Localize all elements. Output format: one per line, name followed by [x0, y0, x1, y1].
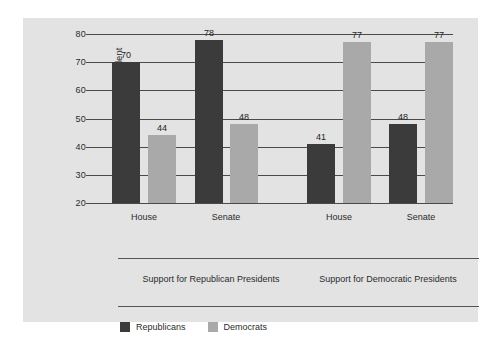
- group-separator-bottom: [118, 306, 479, 307]
- chart-legend: Republicans Democrats: [120, 322, 267, 332]
- legend-item-democrats: Democrats: [208, 322, 268, 332]
- bar-dem-senate-republican-presidents: 48: [230, 124, 258, 203]
- y-tick-label-70: 70: [76, 57, 86, 67]
- y-tick-label-20: 20: [76, 198, 86, 208]
- group-label-republican-presidents: Support for Republican Presidents: [142, 274, 279, 284]
- gridline-60: [95, 90, 453, 91]
- bar-value: 77: [434, 30, 444, 40]
- bar-value: 77: [352, 30, 362, 40]
- y-tick-mark-50: [86, 119, 95, 120]
- category-label-house-1: House: [131, 212, 157, 222]
- bar-dem-house-democratic-presidents: 77: [343, 42, 371, 203]
- bar-value: 70: [121, 50, 131, 60]
- group-label-democratic-presidents: Support for Democratic Presidents: [319, 274, 457, 284]
- axis-baseline: [95, 203, 453, 204]
- legend-item-republicans: Republicans: [120, 322, 186, 332]
- legend-label-democrats: Democrats: [224, 322, 268, 332]
- bar-rep-house-democratic-presidents: 41: [307, 144, 335, 203]
- gridline-70: [95, 62, 453, 63]
- bar-dem-house-republican-presidents: 44: [148, 135, 176, 203]
- y-tick-mark-20: [86, 203, 95, 204]
- category-label-senate-1: Senate: [212, 212, 241, 222]
- group-separator-top: [118, 258, 479, 259]
- y-tick-label-50: 50: [76, 114, 86, 124]
- bar-rep-house-republican-presidents: 70: [112, 62, 140, 203]
- plot-area: Percentage Supporting President 80 70 60…: [95, 34, 453, 203]
- legend-swatch-icon-republicans: [120, 322, 130, 332]
- y-tick-mark-30: [86, 175, 95, 176]
- y-tick-label-80: 80: [76, 29, 86, 39]
- bar-value: 78: [204, 28, 214, 38]
- y-tick-label-60: 60: [76, 85, 86, 95]
- category-label-house-2: House: [326, 212, 352, 222]
- bar-value: 44: [157, 123, 167, 133]
- bar-rep-senate-democratic-presidents: 48: [389, 124, 417, 203]
- y-tick-label-30: 30: [76, 170, 86, 180]
- bar-value: 48: [398, 112, 408, 122]
- y-tick-mark-80: [86, 34, 95, 35]
- y-tick-mark-60: [86, 90, 95, 91]
- y-tick-mark-40: [86, 147, 95, 148]
- bar-dem-senate-democratic-presidents: 77: [425, 42, 453, 203]
- legend-swatch-icon-democrats: [208, 322, 218, 332]
- bar-value: 48: [239, 112, 249, 122]
- legend-label-republicans: Republicans: [136, 322, 186, 332]
- bar-value: 41: [316, 132, 326, 142]
- bar-rep-senate-republican-presidents: 78: [195, 40, 223, 203]
- y-tick-mark-70: [86, 62, 95, 63]
- y-tick-label-40: 40: [76, 142, 86, 152]
- gridline-80: [95, 34, 453, 35]
- category-label-senate-2: Senate: [407, 212, 436, 222]
- chart-figure: Percentage Supporting President 80 70 60…: [23, 18, 478, 322]
